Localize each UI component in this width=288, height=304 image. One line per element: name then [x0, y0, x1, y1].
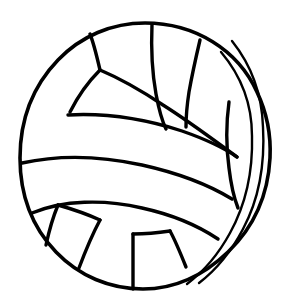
- volleyball-illustration: [0, 0, 288, 304]
- drawing-canvas: [0, 0, 288, 304]
